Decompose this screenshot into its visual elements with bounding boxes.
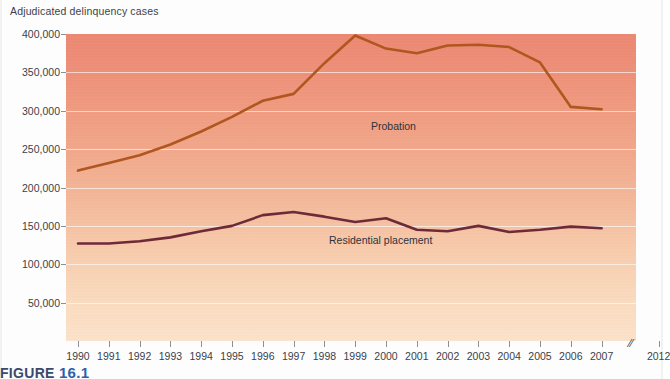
x-axis-tickmark: [602, 341, 603, 347]
x-axis-tickmark: [232, 341, 233, 347]
x-axis-tick-label: 2012: [647, 350, 670, 362]
x-axis-tick-label: 2002: [436, 350, 459, 362]
y-axis-tick-label: 100,000: [22, 258, 60, 270]
x-axis-tickmark: [386, 341, 387, 347]
x-axis-tick-label: 1998: [313, 350, 336, 362]
x-axis-tick-label: 2000: [374, 350, 397, 362]
x-axis-tickmark: [109, 341, 110, 347]
x-axis-tickmark: [294, 341, 295, 347]
x-axis-tick-label: 2007: [590, 350, 613, 362]
x-axis-tickmark: [170, 341, 171, 347]
y-axis-tick-label: 200,000: [22, 182, 60, 194]
y-axis-tick-label: 400,000: [22, 28, 60, 40]
x-axis-tick-label: 2003: [467, 350, 490, 362]
x-axis-tickmark: [448, 341, 449, 347]
x-axis-tickmark: [659, 341, 660, 347]
figure-caption-number: 16.1: [59, 364, 89, 379]
x-axis-tick-label: 1990: [66, 350, 89, 362]
y-axis-tick-label: 50,000: [28, 297, 60, 309]
x-axis-tickmark: [355, 341, 356, 347]
series-line-probation: [78, 36, 602, 171]
x-axis-tickmark: [540, 341, 541, 347]
figure-caption: FIGURE 16.1: [0, 364, 89, 379]
y-axis-tick-label: 350,000: [22, 66, 60, 78]
x-axis-tickmark: [478, 341, 479, 347]
x-axis-tickmark: [263, 341, 264, 347]
x-axis-tick-label: 2001: [405, 350, 428, 362]
x-axis-tickmark: [571, 341, 572, 347]
x-axis-tick-label: 1993: [159, 350, 182, 362]
x-axis-tickmark: [201, 341, 202, 347]
x-axis-tick-label: 2006: [559, 350, 582, 362]
y-axis-tick-label: 250,000: [22, 143, 60, 155]
y-axis-tick-label: 300,000: [22, 105, 60, 117]
series-lines: [66, 34, 636, 341]
x-axis-tickmark: [140, 341, 141, 347]
x-axis-tick-label: 1997: [282, 350, 305, 362]
x-axis-tick-label: 1995: [220, 350, 243, 362]
plot-area: Probation Residential placement: [66, 34, 636, 341]
x-axis-tickmark: [417, 341, 418, 347]
y-axis-tick-label: 150,000: [22, 220, 60, 232]
x-axis-tickmark: [509, 341, 510, 347]
x-axis-tick-label: 2005: [528, 350, 551, 362]
x-axis-tick-label: 1992: [128, 350, 151, 362]
y-axis-label-group: 50,000100,000150,000200,000250,000300,00…: [0, 0, 60, 379]
series-label-probation: Probation: [371, 120, 416, 132]
figure-caption-prefix: FIGURE: [0, 365, 55, 379]
x-axis-tick-label: 1991: [97, 350, 120, 362]
x-axis-tick-label: 1996: [251, 350, 274, 362]
page-edge-right: [661, 0, 663, 379]
x-axis-tick-label: 2004: [498, 350, 521, 362]
x-axis-label-group: 1990199119921993199419951996199719981999…: [0, 350, 663, 370]
x-axis-tickmark: [78, 341, 79, 347]
x-axis-tick-label: 1994: [190, 350, 213, 362]
x-axis-tick-label: 1999: [344, 350, 367, 362]
x-axis-tickmark: [324, 341, 325, 347]
series-label-residential: Residential placement: [329, 234, 432, 246]
